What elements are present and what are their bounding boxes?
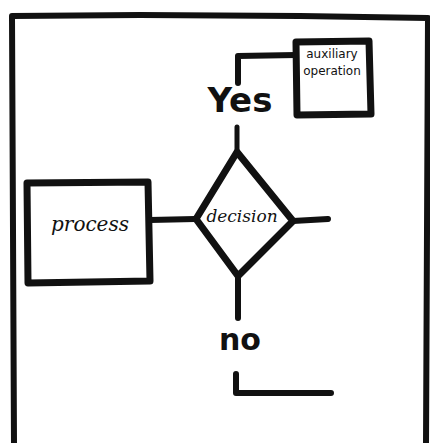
auxiliary-operation-label: auxiliary operation — [296, 46, 368, 80]
connector-process-decision — [150, 219, 195, 220]
no-branch-label: no — [210, 322, 270, 357]
auxiliary-label-line2: operation — [296, 63, 368, 80]
connector-yes-auxiliary — [238, 55, 296, 83]
connector-decision-right — [293, 219, 328, 221]
yes-branch-label: Yes — [205, 80, 275, 120]
process-label: process — [44, 212, 136, 236]
decision-label: decision — [196, 206, 288, 226]
connector-no-continue — [236, 374, 331, 393]
auxiliary-label-line1: auxiliary — [296, 46, 368, 63]
